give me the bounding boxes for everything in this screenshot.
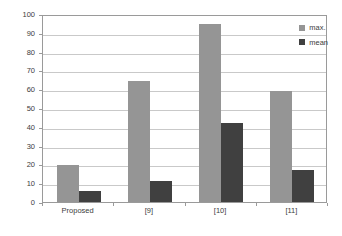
bar-chart: 0102030405060708090100 Proposed[9][10][1… [0, 0, 342, 236]
bar-max-9 [128, 81, 150, 202]
y-tick-label: 10 [27, 180, 35, 188]
x-tick-label: Proposed [42, 207, 113, 215]
bar-max-10 [199, 24, 221, 202]
y-tick-label: 20 [27, 161, 35, 169]
legend: max.mean [299, 24, 328, 46]
legend-swatch-icon [299, 25, 305, 31]
bar-mean-Proposed [79, 191, 101, 202]
bar-max-11 [270, 91, 292, 202]
x-tick-mark [256, 203, 257, 206]
gridline [43, 35, 326, 36]
y-tick-label: 0 [31, 199, 35, 207]
x-tick-mark [327, 203, 328, 206]
x-tick-mark [42, 203, 43, 206]
bar-mean-11 [292, 170, 314, 202]
y-axis: 0102030405060708090100 [0, 0, 42, 236]
y-tick-label: 80 [27, 49, 35, 57]
x-tick-label: [10] [185, 207, 256, 215]
gridline [43, 72, 326, 73]
y-tick-label: 90 [27, 30, 35, 38]
y-tick-label: 40 [27, 124, 35, 132]
legend-swatch-icon [299, 39, 305, 45]
y-tick-label: 60 [27, 86, 35, 94]
x-tick-mark [185, 203, 186, 206]
legend-entry-mean[interactable]: mean [299, 39, 328, 47]
x-axis: Proposed[9][10][11] [42, 207, 327, 227]
y-tick-label: 50 [27, 105, 35, 113]
x-tick-label: [9] [113, 207, 184, 215]
y-tick-label: 70 [27, 67, 35, 75]
x-tick-label: [11] [256, 207, 327, 215]
x-tick-mark [113, 203, 114, 206]
bar-mean-9 [150, 181, 172, 202]
bar-mean-10 [221, 123, 243, 202]
plot-area [42, 15, 327, 203]
legend-label: max. [309, 24, 325, 32]
gridline [43, 54, 326, 55]
legend-label: mean [309, 39, 328, 47]
y-tick-label: 100 [22, 11, 35, 19]
legend-entry-max[interactable]: max. [299, 24, 328, 32]
bar-max-Proposed [57, 165, 79, 202]
y-tick-label: 30 [27, 143, 35, 151]
